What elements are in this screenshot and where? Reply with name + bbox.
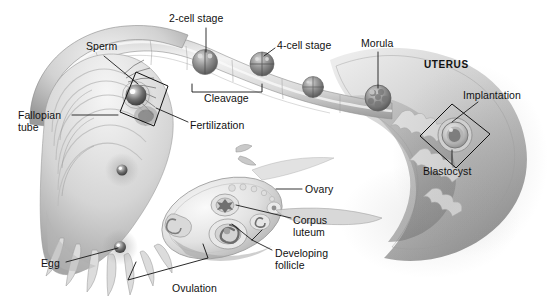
blastocyst [438, 118, 472, 152]
leader-developing-follicle-a [252, 240, 272, 250]
label-blastocyst: Blastocyst [423, 166, 471, 178]
label-fertilization: Fertilization [190, 120, 244, 132]
embryo-morula [365, 85, 391, 111]
figure-canvas: Sperm 2-cell stage 4-cell stage Morula U… [0, 0, 548, 302]
label-fallopian-tube: Fallopian tube [18, 110, 61, 133]
label-uterus: UTERUS [424, 59, 469, 71]
label-sperm: Sperm [86, 41, 117, 53]
label-ovary: Ovary [305, 184, 333, 196]
uterus-wall [330, 48, 548, 278]
label-4-cell-stage: 4-cell stage [277, 40, 331, 52]
label-morula: Morula [361, 38, 393, 50]
label-2-cell-stage: 2-cell stage [169, 13, 223, 25]
label-corpus-luteum: Corpus luteum [293, 215, 327, 238]
reproductive-tract-illustration [0, 0, 548, 302]
label-ovulation: Ovulation [172, 283, 217, 295]
embryo-two-cell [193, 50, 218, 75]
ovary [151, 163, 292, 274]
embryo-four-cell [250, 52, 274, 76]
label-cleavage: Cleavage [204, 93, 249, 105]
corpus-luteum [211, 194, 239, 216]
label-implantation: Implantation [463, 90, 521, 102]
cleavage-bracket [192, 84, 262, 92]
uterotubal-junction [236, 144, 256, 165]
label-egg: Egg [41, 258, 60, 270]
label-developing-follicle: Developing follicle [275, 248, 328, 271]
developing-follicle-large [209, 219, 247, 249]
